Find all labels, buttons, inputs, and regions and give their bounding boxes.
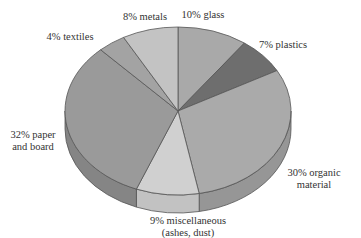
pie-label-plastics: 7% plastics (259, 39, 307, 50)
pie-label-paper-and-board: 32% paperand board (10, 129, 56, 152)
pie-label-glass: 10% glass (182, 9, 225, 20)
pie-label-textiles: 4% textiles (47, 31, 94, 42)
pie-label-miscellaneous: 9% miscellaneous(ashes, dust) (150, 215, 226, 238)
pie-label-metals: 8% metals (123, 11, 167, 22)
pie-chart: 10% glass7% plastics30% organicmaterial9… (0, 0, 361, 238)
pie-label-organic-material: 30% organicmaterial (287, 167, 341, 190)
pie-slices (65, 27, 291, 195)
